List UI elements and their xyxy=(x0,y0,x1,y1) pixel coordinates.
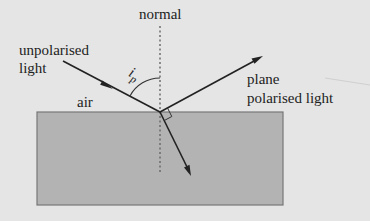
reflected-label-line1: plane xyxy=(247,71,279,88)
reflected-arrowhead xyxy=(252,56,264,64)
reflected-label-line2: polarised light xyxy=(247,90,333,107)
air-label: air xyxy=(77,94,93,111)
reflected-ray xyxy=(160,60,256,112)
diagram-canvas xyxy=(0,0,370,221)
incident-arrowhead xyxy=(100,80,113,89)
incident-label-line1: unpolarised xyxy=(19,42,89,59)
incident-label-line2: light xyxy=(19,60,47,77)
normal-label: normal xyxy=(139,6,182,23)
stray-line xyxy=(325,78,370,85)
